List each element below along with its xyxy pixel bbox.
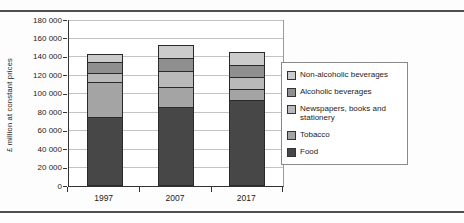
y-tick-label: 80 000	[10, 108, 62, 117]
segment-tobacco	[87, 82, 123, 118]
y-tick-label: 40 000	[10, 145, 62, 154]
y-tick-label: 120 000	[10, 71, 62, 80]
x-category-label: 2017	[224, 193, 268, 203]
bar-1997	[87, 55, 123, 186]
y-axis-tick	[63, 168, 67, 169]
y-tick-label: 100 000	[10, 89, 62, 98]
y-axis-tick	[63, 94, 67, 95]
y-tick-label: 140 000	[10, 52, 62, 61]
legend-label: Alcoholic beverages	[300, 87, 372, 96]
x-axis-tick	[282, 187, 283, 192]
y-axis-tick	[63, 149, 67, 150]
x-axis-tick	[211, 187, 212, 192]
segment-alcoholic-beverages	[229, 65, 265, 79]
bar-2017	[229, 53, 265, 186]
x-axis-tick	[67, 187, 68, 192]
y-axis-tick	[63, 38, 67, 39]
segment-non-alcoholic-beverages	[229, 52, 265, 66]
gridline	[69, 38, 283, 39]
y-axis-tick	[63, 75, 67, 76]
y-axis-tick	[63, 57, 67, 58]
chart-figure: £ million at constant prices 020 00040 0…	[0, 0, 464, 223]
top-page-rule	[0, 10, 464, 12]
segment-food	[87, 117, 123, 186]
legend-item: Non-alcoholic beverages	[287, 70, 402, 80]
y-tick-label: 180 000	[10, 16, 62, 25]
legend-label: Tobacco	[300, 130, 330, 139]
legend-item: Tobacco	[287, 130, 402, 140]
legend-swatch-icon	[287, 105, 296, 114]
y-axis-title: £ million at constant prices	[5, 50, 17, 160]
y-tick-label: 0	[10, 182, 62, 191]
y-axis-tick	[63, 20, 67, 21]
legend-label: Non-alcoholic beverages	[300, 70, 388, 79]
legend-item: Newspapers, books and stationery	[287, 104, 402, 123]
legend-label: Newspapers, books and stationery	[300, 104, 402, 123]
y-tick-label: 20 000	[10, 163, 62, 172]
y-axis-tick	[63, 112, 67, 113]
legend-swatch-icon	[287, 131, 296, 140]
plot-area	[68, 20, 284, 187]
legend-item: Alcoholic beverages	[287, 87, 402, 97]
segment-non-alcoholic-beverages	[158, 45, 194, 59]
legend-swatch-icon	[287, 88, 296, 97]
bottom-page-rule	[0, 211, 464, 213]
x-category-label: 1997	[82, 193, 126, 203]
legend: Non-alcoholic beveragesAlcoholic beverag…	[281, 62, 408, 165]
segment-food	[158, 107, 194, 186]
y-tick-label: 160 000	[10, 34, 62, 43]
gridline	[69, 20, 283, 21]
segment-alcoholic-beverages	[158, 58, 194, 72]
legend-swatch-icon	[287, 71, 296, 80]
y-axis-tick	[63, 131, 67, 132]
legend-swatch-icon	[287, 148, 296, 157]
legend-label: Food	[300, 147, 318, 156]
y-tick-label: 60 000	[10, 126, 62, 135]
legend-item: Food	[287, 147, 402, 157]
x-category-label: 2007	[153, 193, 197, 203]
bar-2007	[158, 46, 194, 186]
segment-newspapers-books-and-stationery	[158, 71, 194, 88]
segment-food	[229, 100, 265, 186]
segment-tobacco	[158, 87, 194, 108]
x-axis-tick	[139, 187, 140, 192]
